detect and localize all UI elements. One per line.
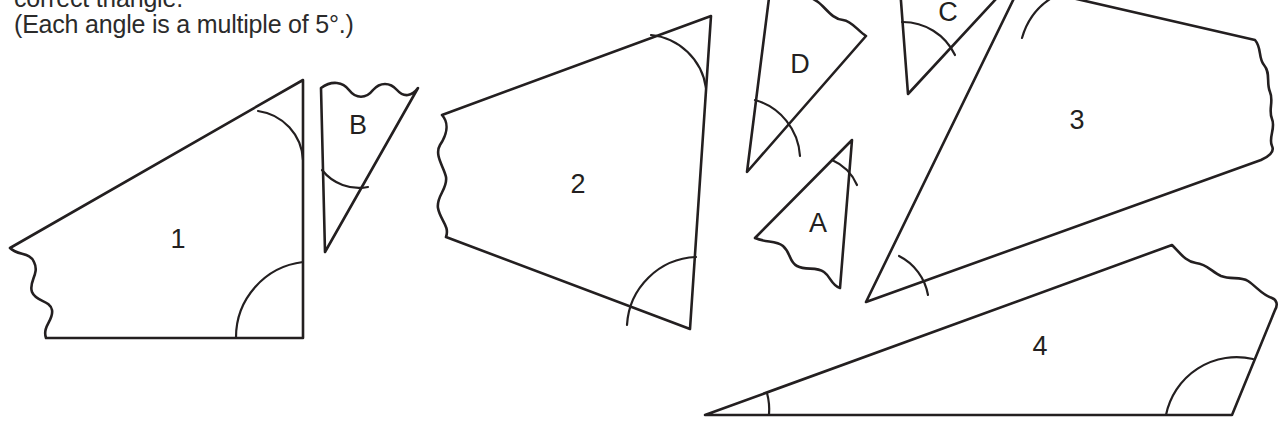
piece-D[interactable]: D [747,0,866,172]
piece-2[interactable]: 2 [438,16,711,329]
piece-1[interactable]: 1 [10,80,303,338]
piece-4-angle-arc-left [767,393,769,415]
piece-B-outline [321,83,418,252]
piece-B[interactable]: B [321,83,418,252]
piece-C-label: C [938,0,958,27]
piece-A-label: A [809,208,827,238]
piece-D-angle-arc [755,100,800,156]
piece-1-outline [10,80,303,338]
piece-B-angle-arc [322,170,368,188]
piece-1-label: 1 [170,224,185,254]
piece-2-angle-arc-top [651,35,706,88]
piece-3-angle-arc-top [1022,0,1110,38]
piece-4[interactable]: 4 [705,245,1277,415]
torn-triangle-pieces-figure: 1 B 2 D C A [0,0,1278,424]
worksheet-canvas: correct triangle. (Each angle is a multi… [0,0,1278,424]
piece-1-angle-arc-bottom [236,262,303,338]
piece-B-label: B [349,110,367,140]
piece-4-outline [705,245,1277,415]
piece-2-angle-arc-bottom [627,257,696,325]
piece-D-outline [747,0,866,172]
piece-3-label: 3 [1069,105,1084,135]
piece-C[interactable]: C [900,0,1008,94]
piece-2-label: 2 [570,169,585,199]
piece-D-label: D [790,49,810,79]
piece-3-outline [866,0,1273,302]
piece-3[interactable]: 3 [866,0,1273,302]
piece-4-angle-arc-right [1166,357,1253,415]
piece-1-angle-arc-top [258,111,303,160]
piece-A[interactable]: A [755,140,857,288]
piece-4-label: 4 [1032,331,1047,361]
piece-A-angle-arc [832,160,857,185]
